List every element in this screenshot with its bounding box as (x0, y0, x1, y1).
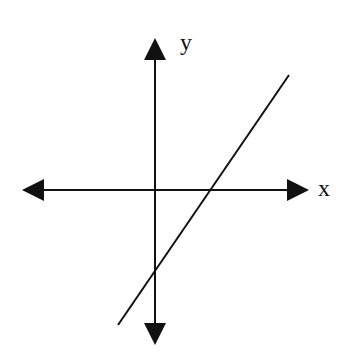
x-axis (22, 179, 309, 201)
x-axis-left-arrow-icon (22, 179, 44, 201)
y-axis-up-arrow-icon (144, 38, 166, 60)
y-axis-down-arrow-icon (144, 323, 166, 345)
coordinate-diagram: y x (0, 0, 350, 362)
plotted-line (118, 75, 289, 325)
y-axis (144, 38, 166, 345)
y-axis-label: y (180, 29, 192, 55)
x-axis-right-arrow-icon (287, 179, 309, 201)
x-axis-label: x (318, 175, 330, 201)
